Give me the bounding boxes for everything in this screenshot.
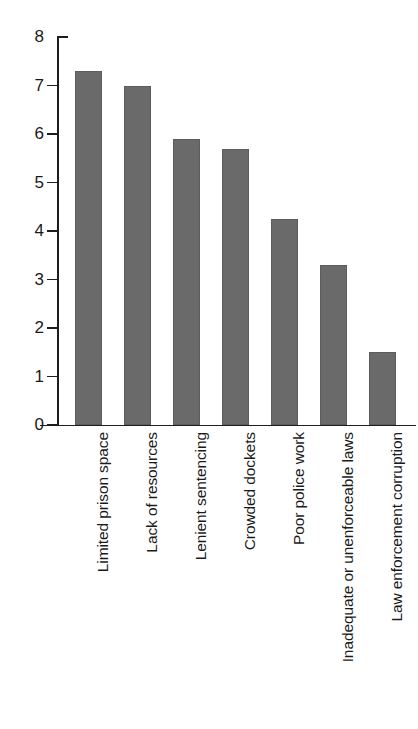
y-axis-tick	[47, 182, 57, 184]
y-axis-tick-label: 3	[18, 271, 44, 288]
x-axis-category-label: Lenient sentencing	[193, 432, 209, 560]
y-axis-tick-label: 6	[18, 125, 44, 142]
y-axis-tick	[57, 36, 68, 38]
x-axis-category-label: Law enforcement corruption	[389, 432, 405, 622]
y-axis-tick-label: 8	[18, 28, 44, 45]
y-axis-spine	[57, 37, 59, 426]
y-axis-tick	[47, 376, 57, 378]
x-axis-category-label: Lack of resources	[144, 432, 160, 553]
bar	[173, 139, 200, 425]
bar	[222, 149, 249, 425]
x-axis-category-label: Poor police work	[291, 432, 307, 545]
bar-chart-figure: 012345678 Limited prison spaceLack of re…	[0, 0, 418, 729]
x-axis-category-label: Crowded dockets	[242, 432, 258, 550]
y-axis-tick	[47, 230, 57, 232]
bar	[271, 219, 298, 425]
y-axis-tick	[47, 85, 57, 87]
bar	[124, 86, 151, 426]
y-axis-tick-label: 4	[18, 222, 44, 239]
y-axis-tick-label: 7	[18, 77, 44, 94]
x-axis-category-label: Inadequate or unenforceable laws	[340, 432, 356, 662]
y-axis-tick	[47, 133, 57, 135]
bar	[320, 265, 347, 425]
bar	[369, 352, 396, 425]
plot-area: 012345678 Limited prison spaceLack of re…	[0, 0, 418, 729]
y-axis-tick	[47, 424, 57, 426]
y-axis-tick-label: 5	[18, 174, 44, 191]
bar	[75, 71, 102, 425]
y-axis-tick-label: 1	[18, 368, 44, 385]
x-axis-category-label: Limited prison space	[95, 432, 111, 572]
y-axis-tick	[47, 327, 57, 329]
y-axis-tick-label: 0	[18, 416, 44, 433]
y-axis-tick-label: 2	[18, 319, 44, 336]
y-axis-tick	[47, 279, 57, 281]
